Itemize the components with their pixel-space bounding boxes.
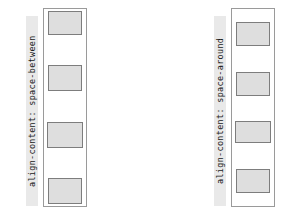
flex-item: [48, 65, 82, 91]
flex-item: [48, 178, 82, 204]
panel-label-space-between: align-content: space-between: [26, 16, 38, 206]
figure-root: align-content: space-between align-conte…: [0, 0, 282, 221]
panel-space-evenly: align-content: space-evenly: [199, 0, 279, 221]
panel-space-between: align-content: space-between: [10, 0, 90, 221]
flex-item: [47, 122, 83, 148]
flex-item: [48, 11, 82, 35]
panel-space-around: align-content: space-around: [104, 0, 184, 221]
flex-container-space-between: [43, 8, 87, 207]
